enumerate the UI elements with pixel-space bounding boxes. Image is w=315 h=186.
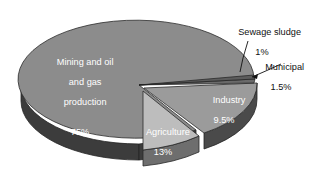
mining-label-line2: and gas	[69, 77, 102, 87]
pie-chart: Mining and oil and gas production 75% Ag…	[0, 0, 315, 186]
municipal-label-value: 1.5%	[247, 83, 315, 93]
mining-label-value: 75%	[28, 128, 132, 138]
slice-label-mining: Mining and oil and gas production 75%	[28, 48, 132, 157]
sewage-label-name: Sewage sludge	[238, 27, 301, 37]
slice-label-industry: Industry 9.5%	[192, 86, 256, 146]
mining-label-line3: production	[64, 97, 107, 107]
mining-label-line1: Mining and oil	[57, 57, 114, 67]
municipal-label-name: Municipal	[265, 62, 304, 72]
slice-label-agriculture: Agriculture 13%	[125, 118, 201, 178]
industry-label-name: Industry	[213, 95, 246, 105]
slice-label-municipal: Municipal 1.5%	[255, 53, 315, 113]
industry-label-value: 9.5%	[192, 116, 256, 126]
agriculture-label-value: 13%	[125, 148, 201, 158]
agriculture-label-name: Agriculture	[146, 127, 190, 137]
